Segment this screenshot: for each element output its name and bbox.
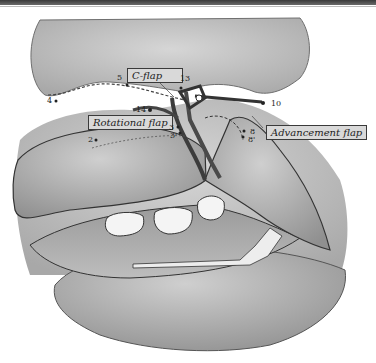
nostril-marker <box>196 95 202 101</box>
point-3-prime: 3' <box>170 131 177 140</box>
nose-shape <box>31 18 310 96</box>
lip-illustration <box>0 0 376 363</box>
tooth-3 <box>198 196 225 220</box>
point-10: 10 <box>271 99 281 108</box>
point-2: 2 <box>88 135 93 144</box>
point-4: 4 <box>47 96 52 105</box>
c-flap-label: C-flap <box>127 68 183 83</box>
point-5: 5 <box>117 73 122 82</box>
point-8-prime: 8' <box>248 135 255 144</box>
point-14: 14 <box>136 105 146 114</box>
rotational-flap-label: Rotational flap <box>88 115 173 130</box>
advancement-flap-label: Advancement flap <box>266 125 367 140</box>
point-13: 13 <box>180 74 190 83</box>
